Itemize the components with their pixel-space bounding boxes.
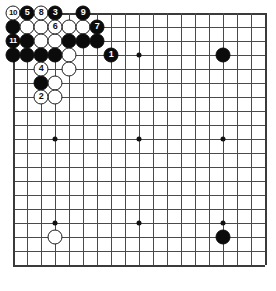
move-number-label: 1 bbox=[109, 50, 114, 59]
black-stone[interactable] bbox=[48, 48, 63, 63]
white-stone[interactable] bbox=[48, 76, 63, 91]
star-point bbox=[53, 221, 58, 226]
black-stone[interactable] bbox=[6, 20, 21, 35]
move-stone-9[interactable]: 9 bbox=[76, 6, 91, 21]
grid-line-vertical bbox=[265, 13, 267, 265]
black-stone[interactable] bbox=[20, 48, 35, 63]
move-stone-10[interactable]: 10 bbox=[6, 6, 21, 21]
white-stone[interactable] bbox=[62, 48, 77, 63]
go-board-diagram: 1058396711142 bbox=[0, 0, 276, 291]
grid-line-vertical bbox=[237, 13, 238, 265]
white-stone[interactable] bbox=[62, 62, 77, 77]
move-stone-11[interactable]: 11 bbox=[6, 34, 21, 49]
move-stone-4[interactable]: 4 bbox=[34, 62, 49, 77]
star-point bbox=[137, 53, 142, 58]
move-number-label: 7 bbox=[95, 22, 100, 31]
black-stone[interactable] bbox=[6, 48, 21, 63]
move-number-label: 3 bbox=[53, 8, 58, 17]
white-stone[interactable] bbox=[34, 20, 49, 35]
white-stone[interactable] bbox=[34, 34, 49, 49]
grid-line-vertical bbox=[167, 13, 168, 265]
black-stone[interactable] bbox=[34, 76, 49, 91]
white-stone[interactable] bbox=[62, 20, 77, 35]
star-point bbox=[53, 137, 58, 142]
white-stone[interactable] bbox=[76, 20, 91, 35]
move-number-label: 4 bbox=[39, 64, 44, 73]
move-number-label: 10 bbox=[9, 9, 17, 17]
move-stone-2[interactable]: 2 bbox=[34, 90, 49, 105]
move-stone-3[interactable]: 3 bbox=[48, 6, 63, 21]
black-stone[interactable] bbox=[90, 34, 105, 49]
white-stone[interactable] bbox=[48, 34, 63, 49]
white-stone[interactable] bbox=[48, 90, 63, 105]
grid-line-vertical bbox=[83, 13, 84, 265]
grid-line-vertical bbox=[251, 13, 252, 265]
move-number-label: 2 bbox=[39, 92, 44, 101]
black-stone[interactable] bbox=[34, 48, 49, 63]
grid-line-vertical bbox=[181, 13, 182, 265]
move-stone-5[interactable]: 5 bbox=[20, 6, 35, 21]
grid-line-vertical bbox=[195, 13, 196, 265]
black-stone[interactable] bbox=[20, 34, 35, 49]
grid-line-vertical bbox=[153, 13, 154, 265]
move-number-label: 8 bbox=[39, 8, 44, 17]
grid-line-vertical bbox=[97, 13, 98, 265]
black-stone[interactable] bbox=[216, 48, 231, 63]
white-stone[interactable] bbox=[20, 20, 35, 35]
grid-line-vertical bbox=[125, 13, 126, 265]
star-point bbox=[137, 221, 142, 226]
move-number-label: 9 bbox=[81, 8, 86, 17]
grid-line-vertical bbox=[209, 13, 210, 265]
white-stone[interactable] bbox=[48, 230, 63, 245]
move-stone-1[interactable]: 1 bbox=[104, 48, 119, 63]
star-point bbox=[137, 137, 142, 142]
goban-grid[interactable]: 1058396711142 bbox=[13, 13, 265, 265]
star-point bbox=[221, 221, 226, 226]
star-point bbox=[221, 137, 226, 142]
move-number-label: 5 bbox=[25, 8, 30, 17]
move-stone-8[interactable]: 8 bbox=[34, 6, 49, 21]
move-number-label: 6 bbox=[53, 22, 58, 31]
move-number-label: 11 bbox=[9, 37, 16, 45]
black-stone[interactable] bbox=[76, 34, 91, 49]
black-stone[interactable] bbox=[216, 230, 231, 245]
grid-line-horizontal bbox=[13, 265, 265, 267]
move-stone-6[interactable]: 6 bbox=[48, 20, 63, 35]
black-stone[interactable] bbox=[62, 34, 77, 49]
move-stone-7[interactable]: 7 bbox=[90, 20, 105, 35]
